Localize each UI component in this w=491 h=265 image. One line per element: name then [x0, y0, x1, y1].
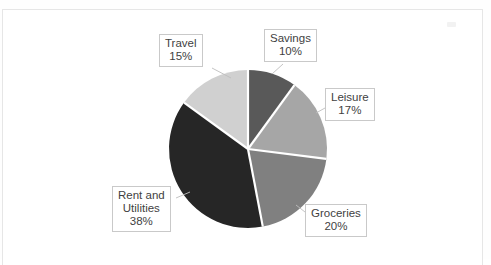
data-label-groceries[interactable]: Groceries 20%	[305, 204, 367, 237]
data-label-leisure[interactable]: Leisure 17%	[325, 88, 375, 121]
data-label-savings[interactable]: Savings 10%	[264, 29, 317, 62]
data-label-travel[interactable]: Travel 15%	[159, 34, 203, 67]
data-label-leisure-name: Leisure	[331, 91, 369, 104]
leader-line-savings	[272, 64, 283, 74]
data-label-groceries-name: Groceries	[311, 207, 361, 220]
data-label-savings-value: 10%	[270, 45, 311, 58]
leader-line-leisure	[316, 108, 325, 113]
data-label-rent-value: 38%	[118, 215, 165, 228]
data-label-travel-name: Travel	[165, 37, 197, 50]
data-label-rent-and-utilities[interactable]: Rent and Utilities 38%	[112, 186, 171, 232]
data-label-rent-line-2: Utilities	[118, 202, 165, 215]
data-label-groceries-value: 20%	[311, 220, 361, 233]
data-label-savings-name: Savings	[270, 32, 311, 45]
data-label-rent-line-1: Rent and	[118, 189, 165, 202]
data-label-travel-value: 15%	[165, 50, 197, 63]
data-label-leisure-value: 17%	[331, 104, 369, 117]
